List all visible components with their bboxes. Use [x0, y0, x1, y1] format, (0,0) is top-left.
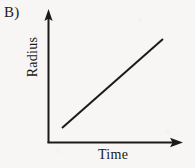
y-axis-label: Radius	[26, 22, 40, 92]
figure-panel-b: B) Time Radius	[0, 0, 195, 168]
data-series-line	[62, 39, 163, 128]
x-axis-label: Time	[98, 148, 128, 162]
